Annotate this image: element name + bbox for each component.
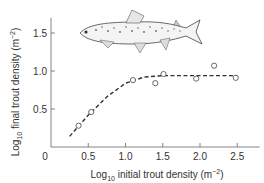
y-tick-label: 1.5 <box>33 28 47 39</box>
y-tick-label: 1.0 <box>33 66 47 77</box>
y-tick-label: 0.5 <box>33 104 47 115</box>
data-point <box>161 71 166 76</box>
data-point <box>233 75 238 80</box>
data-point <box>76 123 81 128</box>
trout-density-chart: 00.51.01.52.02.50.51.01.5 Log10 initial … <box>0 0 264 183</box>
x-tick-label: 2.0 <box>193 151 207 162</box>
data-point <box>130 78 135 83</box>
x-tick-label: 2.5 <box>230 151 244 162</box>
x-tick-label: 1.0 <box>119 151 133 162</box>
data-point <box>194 76 199 81</box>
data-point <box>89 109 94 114</box>
x-tick-label: 1.5 <box>156 151 170 162</box>
x-tick-label: 0.5 <box>81 151 95 162</box>
trout-illustration <box>80 10 202 53</box>
x-axis-label: Log10 initial trout density (m−2) <box>90 168 223 182</box>
plot-area <box>70 63 239 136</box>
data-point <box>153 81 158 86</box>
x-tick-label: 0 <box>42 151 48 162</box>
data-point <box>212 63 217 68</box>
y-axis-label: Log10 final trout density (m−2) <box>9 28 23 157</box>
